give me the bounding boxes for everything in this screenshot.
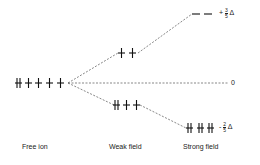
lower-energy-label: - 25 Δ [219,122,232,133]
weak-eg-level [118,48,136,58]
weak-field-label: Weak field [109,143,142,150]
lower-sign: - [219,123,221,130]
lower-denominator: 5 [223,128,226,133]
strong-t2g-level [186,123,214,133]
delta-symbol: Δ [229,9,234,16]
upper-fraction: 35 [225,8,228,19]
upper-denominator: 5 [225,14,228,19]
strong-field-label: Strong field [183,143,218,150]
free-ion-label: Free ion [22,143,48,150]
weak-t2g-level [113,100,140,110]
connector-lines [68,14,228,128]
delta-symbol: Δ [228,123,233,130]
free-ion-level [15,78,64,88]
upper-energy-label: + 35 Δ [219,8,234,19]
zero-energy-label: 0 [231,79,235,86]
upper-sign: + [219,9,223,16]
lower-fraction: 25 [223,122,226,133]
splitting-diagram [0,0,260,165]
